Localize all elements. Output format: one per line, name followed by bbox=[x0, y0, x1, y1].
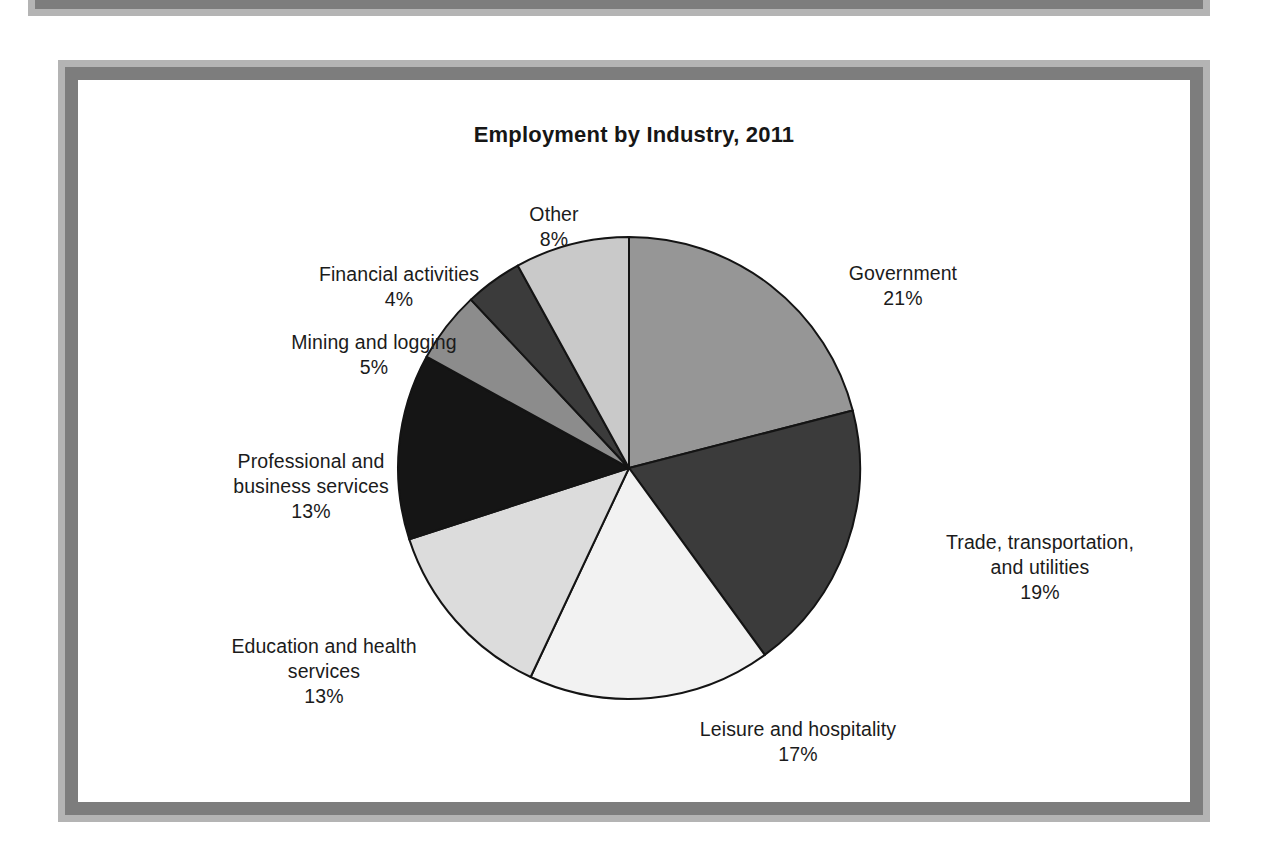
pie-label-professional-and-business-services: Professional and business services 13% bbox=[181, 449, 441, 524]
pie-label-trade-transportation-and-utilities: Trade, transportation, and utilities 19% bbox=[890, 530, 1190, 605]
pie-label-government: Government 21% bbox=[758, 261, 1048, 311]
page-frame-top bbox=[28, 0, 1210, 16]
page-frame-top-inner bbox=[35, 0, 1203, 9]
pie-label-leisure-and-hospitality: Leisure and hospitality 17% bbox=[648, 717, 948, 767]
pie-label-other: Other 8% bbox=[464, 202, 644, 252]
pie-label-education-and-health-services: Education and health services 13% bbox=[184, 634, 464, 709]
pie-label-financial-activities: Financial activities 4% bbox=[254, 262, 544, 312]
pie-label-mining-and-logging: Mining and logging 5% bbox=[229, 330, 519, 380]
chart-frame-inner: Employment by Industry, 2011 Other 8% Fi… bbox=[65, 67, 1203, 815]
chart-frame: Employment by Industry, 2011 Other 8% Fi… bbox=[58, 60, 1210, 822]
pie-chart: Employment by Industry, 2011 Other 8% Fi… bbox=[78, 80, 1190, 802]
